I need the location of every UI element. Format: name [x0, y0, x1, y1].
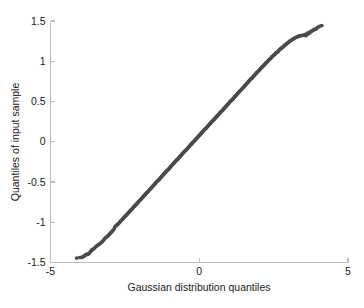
- y-tick-label: -0.5: [27, 176, 45, 188]
- y-tick-label: -1.5: [27, 256, 45, 268]
- x-tick-label: 0: [196, 265, 202, 277]
- y-axis-title: Quantiles of input sample: [9, 83, 21, 202]
- qq-plot-figure: -1.5-1-0.500.511.5 -505 Gaussian distrib…: [0, 0, 364, 308]
- y-tick-label: 1.5: [31, 15, 46, 27]
- y-tick-label: 1: [40, 55, 46, 67]
- data-point: [91, 247, 95, 251]
- x-tick-label: 5: [345, 265, 351, 277]
- y-tick-label: -1: [36, 216, 45, 228]
- y-tick-label: 0: [40, 135, 46, 147]
- x-axis-title: Gaussian distribution quantiles: [127, 281, 270, 293]
- y-tick-label: 0.5: [31, 95, 46, 107]
- x-tick-label: -5: [46, 265, 55, 277]
- plot-canvas: -1.5-1-0.500.511.5 -505 Gaussian distrib…: [0, 0, 364, 308]
- data-point: [318, 24, 322, 28]
